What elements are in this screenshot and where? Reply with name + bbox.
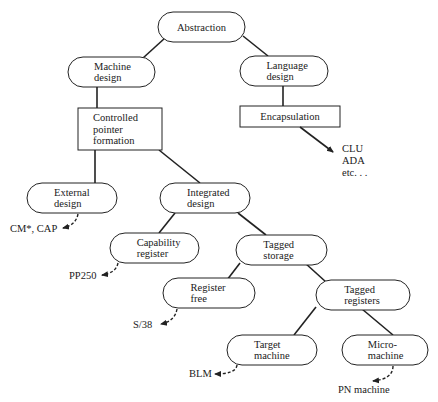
node-label-line: Encapsulation [260,111,320,122]
edge-abstraction-to-machine-design [143,38,165,58]
example-label: ADA [342,155,365,166]
node-micro-machine: Micro-machine [342,335,428,365]
node-label-line: free [191,293,208,304]
nodes-layer: AbstractionMachinedesignLanguagedesignCo… [27,12,428,365]
example-micro-machine: PN machine [338,366,393,395]
node-register-free: Registerfree [163,278,255,308]
node-tagged-storage: Taggedstorage [236,235,327,265]
example-label: etc. . . [342,167,367,178]
example-label: BLM [189,368,212,379]
node-label-line: register [137,248,169,259]
node-integrated-design: Integrateddesign [160,183,250,213]
arrow-icon [300,127,333,152]
node-label-line: design [187,198,215,209]
arrow-icon [63,214,78,228]
node-label-line: Capability [137,237,181,248]
node-label-line: Machine [94,61,131,72]
node-label-line: External [54,187,90,198]
node-machine-design: Machinedesign [68,57,155,87]
example-encapsulation: CLUADAetc. . . [300,127,367,178]
node-label-line: storage [263,250,294,261]
design-hierarchy-diagram: AbstractionMachinedesignLanguagedesignCo… [0,0,438,402]
node-label-line: Micro- [368,339,398,350]
node-label-line: design [266,71,294,82]
example-label: PP250 [69,270,96,281]
node-label-line: pointer [93,124,123,135]
edge-tagged-storage-to-register-free [227,263,240,280]
example-label: CLU [342,143,363,154]
example-register-free: S/38 [133,309,177,330]
node-label-line: Language [266,60,308,71]
node-label-line: registers [344,295,380,306]
node-tagged-registers: Taggedregisters [316,280,410,310]
example-external-design: CM*, CAP [10,214,78,234]
edge-integrated-design-to-tagged-storage [238,213,266,235]
node-label-line: formation [93,135,135,146]
diagram-canvas: AbstractionMachinedesignLanguagedesignCo… [0,0,438,402]
node-target-machine: Targetmachine [227,335,317,365]
edge-integrated-design-to-capability-register [159,213,175,233]
edge-tagged-registers-to-micro-machine [362,309,393,335]
node-language-design: Languagedesign [240,56,328,86]
node-external-design: Externaldesign [27,183,117,213]
arrow-icon [102,263,118,275]
node-capability-register: Capabilityregister [110,233,199,263]
node-controlled-pointer: Controlledpointerformation [78,108,162,150]
edge-tagged-storage-to-tagged-registers [305,263,326,282]
node-label-line: machine [254,350,290,361]
node-label-line: Controlled [93,112,139,123]
node-label-line: Tagged [263,239,295,250]
examples-layer: CLUADAetc. . .CM*, CAPPP250S/38BLMPN mac… [10,127,393,395]
arrow-icon [161,309,177,324]
example-target-machine: BLM [189,365,237,379]
node-encapsulation: Encapsulation [240,106,340,127]
node-label-line: Target [254,339,281,350]
node-abstraction: Abstraction [158,12,245,42]
node-label-line: Abstraction [177,22,227,33]
node-label-line: Register [191,282,226,293]
node-label-line: Tagged [344,284,376,295]
arrow-icon [215,365,237,374]
edge-tagged-registers-to-target-machine [294,307,316,335]
example-capability-register: PP250 [69,263,118,281]
node-label-line: machine [368,350,404,361]
edge-controlled-pointer-to-integrated-design [159,150,200,183]
node-label-line: design [54,198,82,209]
example-label: PN machine [338,384,390,395]
node-label-line: Integrated [187,187,230,198]
example-label: CM*, CAP [10,223,57,234]
node-label-line: design [94,72,122,83]
example-label: S/38 [133,319,152,330]
arrow-icon [373,366,393,381]
edge-abstraction-to-language-design [243,36,268,56]
